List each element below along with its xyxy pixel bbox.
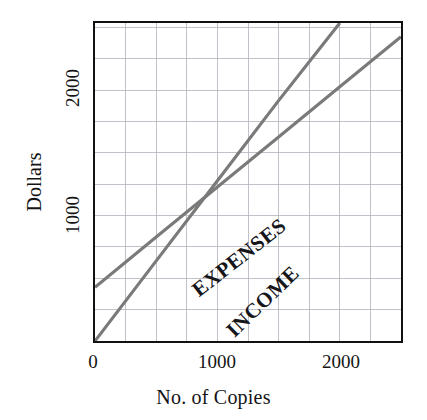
y-axis-title: Dollars bbox=[23, 153, 46, 212]
x-axis-tick-label-0: 0 bbox=[88, 352, 98, 371]
y-axis-tick-label-1000: 1000 bbox=[63, 196, 82, 234]
x-axis-tick-label-2000: 2000 bbox=[322, 352, 360, 371]
chart-series-lines bbox=[95, 23, 401, 341]
plot-area: EXPENSES INCOME bbox=[93, 21, 403, 343]
series-line-income bbox=[95, 23, 340, 341]
x-axis-tick-label-1000: 1000 bbox=[198, 352, 236, 371]
y-axis-tick-label-2000: 2000 bbox=[63, 69, 82, 107]
x-axis-title: No. of Copies bbox=[0, 386, 427, 409]
chart-figure: Dollars 1000 2000 bbox=[0, 0, 427, 420]
